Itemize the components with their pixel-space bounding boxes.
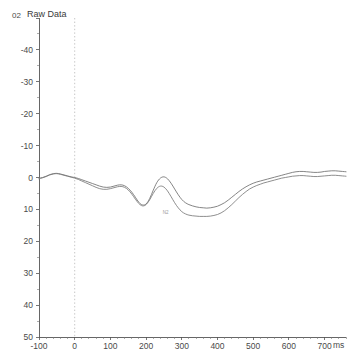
peak-annotations: N2 <box>163 210 169 215</box>
y-axis-tick-label: 0 <box>28 173 33 183</box>
y-axis-tick-label: -30 <box>21 77 34 87</box>
x-axis-tick-label: -100 <box>30 341 47 351</box>
chart-title: Raw Data <box>27 9 67 19</box>
x-axis-tick-label: 300 <box>175 341 189 351</box>
y-axis-tick-label: 40 <box>24 300 34 310</box>
x-axis-tick-label: 700 <box>317 341 331 351</box>
channel-label: 02 <box>12 11 21 20</box>
y-axis-tick-label: 20 <box>24 236 34 246</box>
x-axis-tick-label: 0 <box>72 341 77 351</box>
x-axis-tick-label: 200 <box>139 341 153 351</box>
y-axis-tick-label: 10 <box>24 204 34 214</box>
y-axis-tick-label: -10 <box>21 141 34 151</box>
waveform-trace-2 <box>39 174 346 217</box>
x-axis-tick-label: 400 <box>210 341 224 351</box>
x-axis-tick-label: 600 <box>282 341 296 351</box>
waveform-trace-1 <box>39 171 346 208</box>
x-axis-tick-label: 100 <box>103 341 117 351</box>
y-axis: -40-30-20-1001020304050 <box>21 18 39 342</box>
y-axis-tick-label: -40 <box>21 45 34 55</box>
x-axis-unit-label: ms <box>333 340 344 350</box>
x-axis-tick-label: 500 <box>246 341 260 351</box>
y-axis-tick-label: -20 <box>21 109 34 119</box>
erp-chart-svg: 02 Raw Data -40-30-20-1001020304050 -100… <box>0 0 360 361</box>
peak-annotation-label: N2 <box>163 210 169 215</box>
erp-plot-container: 02 Raw Data -40-30-20-1001020304050 -100… <box>0 0 360 361</box>
y-axis-tick-label: 30 <box>24 268 34 278</box>
waveform-traces <box>39 171 346 217</box>
x-axis: -1000100200300400500600700 <box>30 337 346 351</box>
